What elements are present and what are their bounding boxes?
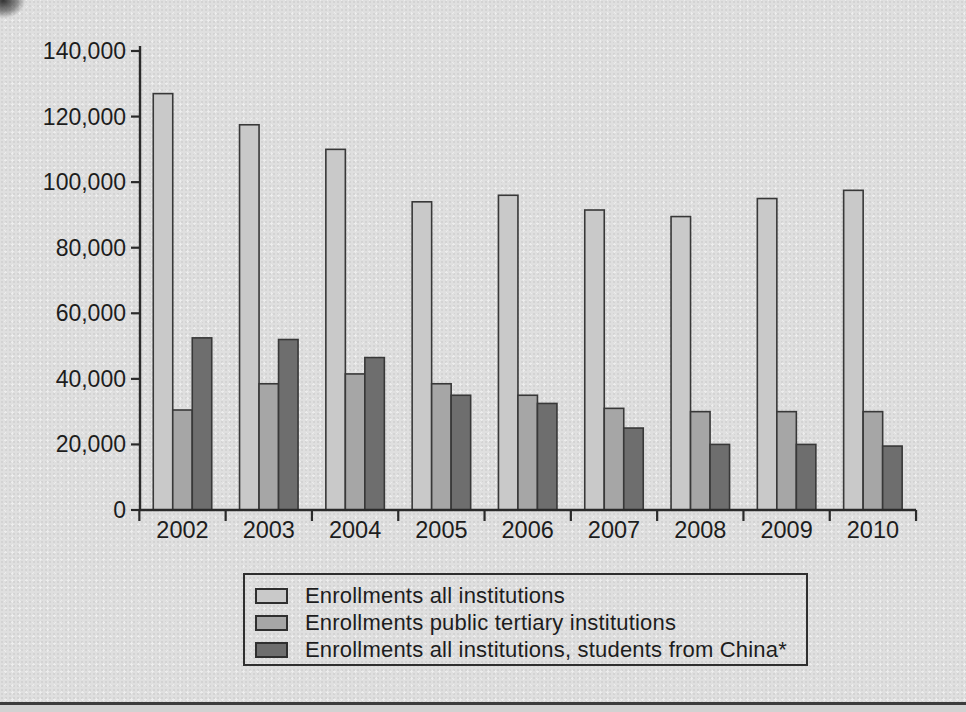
- bar-2003-series1: [259, 384, 279, 510]
- x-tick-label: 2003: [243, 517, 295, 543]
- y-tick-label: 20,000: [56, 431, 126, 457]
- bar-2007-series0: [585, 210, 605, 510]
- bar-2002-series1: [173, 410, 193, 510]
- legend-label: Enrollments public tertiary institutions: [305, 610, 676, 636]
- x-tick-label: 2008: [674, 517, 726, 543]
- scanned-figure-page: 020,00040,00060,00080,000100,000120,0001…: [0, 0, 966, 712]
- legend-label: Enrollments all institutions, students f…: [305, 637, 787, 663]
- legend-swatch-public-tertiary: [255, 615, 288, 631]
- legend-item: Enrollments all institutions, students f…: [255, 636, 806, 663]
- x-tick-label: 2009: [760, 517, 812, 543]
- bar-2008-series1: [691, 412, 711, 510]
- bar-2003-series0: [240, 125, 259, 510]
- x-tick-label: 2004: [329, 517, 381, 543]
- bar-2010-series0: [844, 190, 864, 510]
- bar-2004-series0: [326, 149, 346, 510]
- bar-2007-series1: [604, 408, 624, 510]
- legend-swatch-all-institutions: [255, 588, 288, 604]
- bar-2005-series0: [412, 202, 432, 510]
- y-tick-label: 140,000: [43, 38, 126, 64]
- x-tick-label: 2002: [156, 517, 208, 543]
- y-tick-label: 0: [113, 497, 126, 523]
- y-tick-label: 100,000: [43, 169, 126, 195]
- x-tick-label: 2005: [415, 517, 467, 543]
- bar-2009-series0: [757, 199, 777, 510]
- y-tick-label: 120,000: [43, 104, 126, 130]
- bar-2010-series2: [883, 446, 903, 510]
- y-tick-label: 40,000: [56, 366, 126, 392]
- bar-2005-series2: [451, 395, 471, 510]
- bar-2009-series2: [796, 444, 816, 510]
- legend-item: Enrollments all institutions: [255, 582, 806, 609]
- bar-2007-series2: [624, 428, 644, 510]
- bar-2002-series2: [192, 338, 212, 510]
- bar-2005-series1: [432, 384, 452, 510]
- bar-2009-series1: [777, 412, 797, 510]
- legend: Enrollments all institutions Enrollments…: [243, 573, 808, 666]
- bar-2004-series1: [345, 374, 365, 510]
- legend-swatch-students-from-china: [255, 642, 288, 658]
- bar-2008-series0: [671, 217, 691, 510]
- page-bottom-edge: [0, 705, 966, 712]
- x-tick-label: 2007: [588, 517, 640, 543]
- bar-2003-series2: [279, 340, 299, 510]
- legend-item: Enrollments public tertiary institutions: [255, 609, 806, 636]
- bar-chart: 020,00040,00060,00080,000100,000120,0001…: [0, 0, 966, 560]
- x-tick-label: 2006: [502, 517, 554, 543]
- y-tick-label: 60,000: [56, 300, 126, 326]
- bar-2010-series1: [863, 412, 883, 510]
- bar-2006-series2: [537, 403, 557, 510]
- y-tick-label: 80,000: [56, 235, 126, 261]
- bar-2006-series1: [518, 395, 538, 510]
- bar-2004-series2: [365, 358, 385, 510]
- x-tick-label: 2010: [847, 517, 899, 543]
- bar-2006-series0: [498, 195, 518, 510]
- scan-artifact-corner: [0, 0, 25, 18]
- bar-2002-series0: [153, 94, 173, 510]
- bar-2008-series2: [710, 444, 730, 510]
- legend-label: Enrollments all institutions: [305, 583, 565, 609]
